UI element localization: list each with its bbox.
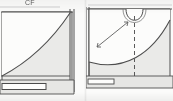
left-piece-cf-label: CF <box>25 0 35 6</box>
left-piece-slot <box>2 84 46 90</box>
pattern-sheet: CF <box>0 0 173 101</box>
pattern-piece-right[interactable]: CF GRAIN <box>86 0 173 101</box>
left-piece-drawing <box>0 0 86 101</box>
pattern-piece-left[interactable]: CF <box>0 0 86 101</box>
right-piece-slot <box>88 79 114 84</box>
right-piece-drawing <box>86 0 173 101</box>
